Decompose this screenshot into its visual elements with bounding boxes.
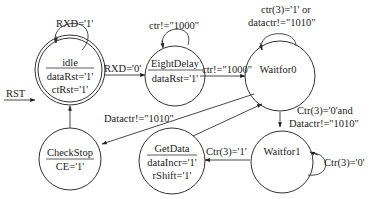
state-checkstop: CheckStop CE='1' xyxy=(39,128,101,190)
state-eightdelay-name: EightDelay xyxy=(151,58,200,69)
state-eightdelay-output-0: dataRst='1' xyxy=(152,73,199,84)
state-waitfor0: Waitfor0 xyxy=(245,41,315,111)
state-getdata-name: GetData xyxy=(155,143,190,154)
state-idle: idle dataRst='1' ctRst='1' xyxy=(35,35,105,105)
eightdelay-self-loop-arrowhead xyxy=(162,40,163,48)
waitfor0-to-waitfor1-label-line1: Ctr(3)='0'and xyxy=(297,105,354,117)
waitfor0-to-waitfor1-label-line2: Datactr!="1010" xyxy=(289,118,359,129)
state-checkstop-output-0: CE='1' xyxy=(56,161,84,172)
state-waitfor1-name: Waitfor1 xyxy=(263,146,300,157)
state-diagram: RST RXD='1' RXD='0' ctr!="1000" ctr!="10… xyxy=(0,0,371,199)
getdata-to-waitfor0-arrow xyxy=(193,104,262,136)
state-waitfor0-circle xyxy=(245,41,315,111)
state-idle-name: idle xyxy=(62,57,78,68)
waitfor0-to-checkstop-label: Datactr!="1010" xyxy=(104,113,174,124)
eightdelay-self-loop xyxy=(162,29,189,47)
eightdelay-to-waitfor0-label: ctr!="1000" xyxy=(202,64,252,75)
state-eightdelay: EightDelay dataRst='1' xyxy=(145,46,205,106)
idle-to-eightdelay-label: RXD='0' xyxy=(104,63,141,74)
state-waitfor0-name: Waitfor0 xyxy=(259,64,296,75)
state-getdata-output-1: rShift='1' xyxy=(153,170,192,181)
waitfor1-to-getdata-label: Ctr(3)='1' xyxy=(206,146,247,158)
state-waitfor1-circle xyxy=(251,131,313,193)
reset-label: RST xyxy=(6,88,26,99)
state-checkstop-name: CheckStop xyxy=(47,147,93,158)
waitfor1-self-loop-label: Ctr(3)='0' xyxy=(324,157,365,169)
eightdelay-self-loop-label: ctr!="1000" xyxy=(149,20,199,31)
waitfor0-self-loop-label-line1: ctr(3)='1' or xyxy=(261,4,311,16)
state-waitfor1: Waitfor1 xyxy=(251,131,313,193)
waitfor0-self-loop xyxy=(261,34,296,50)
idle-self-loop-label: RXD='1' xyxy=(56,18,93,29)
state-getdata: GetData dataIncr='1' rShift='1' xyxy=(139,128,205,194)
waitfor1-self-loop xyxy=(308,153,326,175)
waitfor0-self-loop-label-line2: datactr!="1010" xyxy=(248,17,316,28)
state-getdata-output-0: dataIncr='1' xyxy=(147,157,196,168)
state-idle-output-0: dataRst='1' xyxy=(47,71,94,82)
state-idle-output-1: ctRst='1' xyxy=(52,84,89,95)
